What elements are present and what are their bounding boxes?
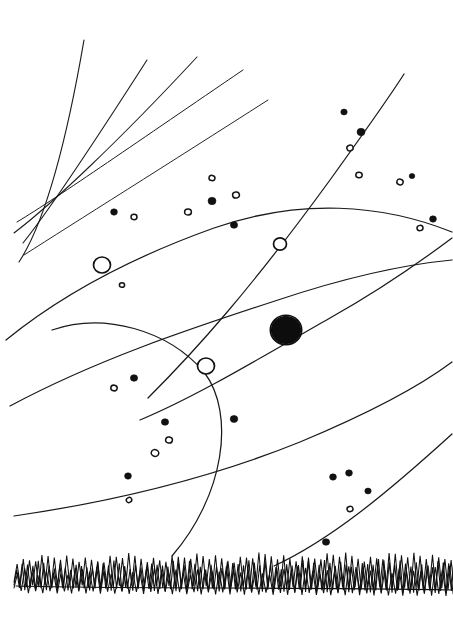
star-filled bbox=[346, 470, 353, 476]
star-filled bbox=[341, 109, 347, 115]
star-filled bbox=[330, 474, 337, 480]
star-filled bbox=[409, 173, 415, 178]
star-ring bbox=[396, 178, 404, 185]
star-filled bbox=[130, 375, 137, 382]
star-ring bbox=[232, 191, 240, 198]
star-ring bbox=[346, 144, 354, 151]
star-ring bbox=[209, 175, 216, 181]
sketch-canvas bbox=[0, 0, 453, 627]
star-ring bbox=[355, 172, 362, 178]
ink-drawing bbox=[0, 0, 453, 627]
star-filled bbox=[111, 209, 118, 215]
star-filled bbox=[208, 197, 216, 204]
star-filled bbox=[230, 222, 237, 229]
star-ring bbox=[184, 209, 191, 215]
star-ring bbox=[165, 436, 173, 443]
star-filled bbox=[161, 419, 168, 426]
star-filled bbox=[357, 128, 365, 135]
planet-open-circle-lower bbox=[198, 358, 215, 374]
star-ring bbox=[346, 506, 353, 512]
planet-open-circle-left bbox=[94, 257, 111, 273]
planet-filled-dark bbox=[270, 315, 301, 344]
star-filled bbox=[365, 488, 371, 494]
star-filled bbox=[125, 473, 132, 479]
star-filled bbox=[230, 416, 238, 423]
star-filled bbox=[430, 216, 437, 222]
star-ring bbox=[119, 283, 124, 288]
star-ring bbox=[417, 225, 424, 231]
star-ring bbox=[110, 385, 117, 392]
star-ring bbox=[131, 214, 137, 219]
planet-open-circle-upper bbox=[274, 238, 287, 250]
star-filled bbox=[322, 539, 329, 546]
